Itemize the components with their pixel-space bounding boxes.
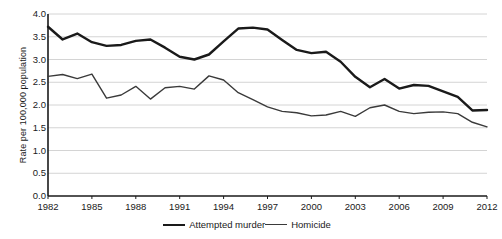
x-tick-label: 1994 xyxy=(204,202,244,212)
x-tick-label: 2012 xyxy=(467,202,502,212)
x-tick-label: 1985 xyxy=(72,202,112,212)
x-tick-label: 1982 xyxy=(28,202,68,212)
x-tick-label: 2006 xyxy=(379,202,419,212)
legend-line-swatch-homicide xyxy=(265,224,287,225)
legend-label-attempted-murder: Attempted murder xyxy=(189,219,265,230)
x-tick-label: 1991 xyxy=(160,202,200,212)
legend-item-attempted-murder: Attempted murder xyxy=(163,219,265,230)
x-tick-label: 1997 xyxy=(248,202,288,212)
legend-line-swatch-attempted-murder xyxy=(163,224,185,226)
x-tick-label: 1988 xyxy=(116,202,156,212)
x-tick-label: 2003 xyxy=(335,202,375,212)
x-tick-label: 2009 xyxy=(423,202,463,212)
legend-label-homicide: Homicide xyxy=(291,219,331,230)
chart-legend: Attempted murder Homicide xyxy=(0,219,494,230)
legend-item-homicide: Homicide xyxy=(265,219,331,230)
x-tick-label: 2000 xyxy=(291,202,331,212)
